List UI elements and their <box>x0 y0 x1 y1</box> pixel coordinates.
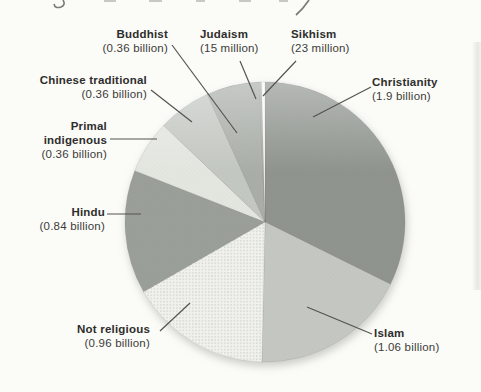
label-hindu: Hindu (0.84 billion) <box>5 205 105 233</box>
label-christianity-value: (1.9 billion) <box>372 89 477 103</box>
label-chinese-traditional: Chinese traditional (0.36 billion) <box>7 73 147 101</box>
label-primal-indigenous-value: (0.36 billion) <box>7 147 107 161</box>
label-islam-name: Islam <box>374 326 474 340</box>
label-buddhist-name: Buddhist <box>48 27 168 41</box>
label-not-religious: Not religious (0.96 billion) <box>40 322 150 350</box>
label-christianity: Christianity (1.9 billion) <box>372 75 477 103</box>
label-sikhism-value: (23 million) <box>291 41 401 55</box>
label-buddhist-value: (0.36 billion) <box>48 41 168 55</box>
religions-pie-figure: Buddhist (0.36 billion) Judaism (15 mill… <box>0 0 481 392</box>
scan-highlight-overlay <box>125 82 405 362</box>
label-islam-value: (1.06 billion) <box>374 340 474 354</box>
label-islam: Islam (1.06 billion) <box>374 326 474 354</box>
leader-line-chinese-traditional <box>151 90 192 122</box>
label-not-religious-name: Not religious <box>40 322 150 336</box>
label-sikhism-name: Sikhism <box>291 27 401 41</box>
label-primal-indigenous-name: Primal indigenous <box>43 119 107 147</box>
label-hindu-name: Hindu <box>5 205 105 219</box>
label-chinese-traditional-name: Chinese traditional <box>7 73 147 87</box>
label-hindu-value: (0.84 billion) <box>5 219 105 233</box>
label-not-religious-value: (0.96 billion) <box>40 336 150 350</box>
label-buddhist: Buddhist (0.36 billion) <box>48 27 168 55</box>
page-edge-shading <box>472 42 481 290</box>
label-christianity-name: Christianity <box>372 75 477 89</box>
label-chinese-traditional-value: (0.36 billion) <box>7 87 147 101</box>
label-primal-indigenous: Primal indigenous (0.36 billion) <box>7 119 107 161</box>
label-sikhism: Sikhism (23 million) <box>291 27 401 55</box>
